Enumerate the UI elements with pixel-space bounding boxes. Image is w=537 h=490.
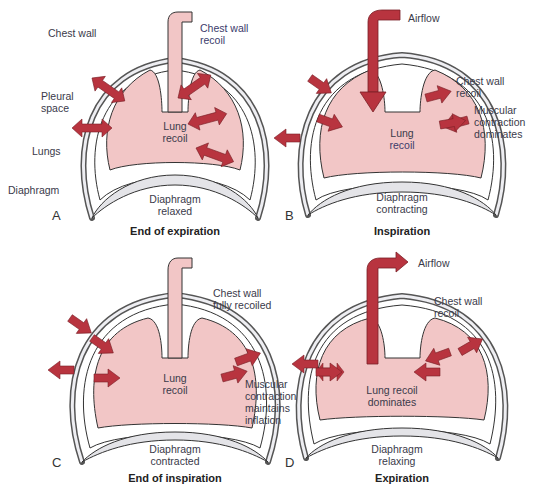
diaphragm-state-label: Diaphragm contracting [357,191,447,215]
diaphragm-state-label: Diaphragm relaxing [352,443,442,467]
panel-letter: A [52,208,61,223]
panel-b [274,10,503,215]
center-label: Lung recoil [145,372,205,396]
label-chest-wall: Chest wall [48,27,96,39]
panel-letter: B [285,208,294,223]
panel-letter: D [285,455,294,470]
center-label-2: recoil [372,139,432,151]
label-airflow: Airflow [408,12,440,24]
label-chest-wall-fully-recoiled: Chest wall fully recoiled [213,287,271,311]
panel-caption: Expiration [327,472,477,484]
panel-d [292,252,505,458]
center-label-1: Lung [372,127,432,139]
label-diaphragm: Diaphragm [8,184,59,196]
label-chest-wall-recoil: Chest wall recoil [200,22,248,46]
label-pleural-space: Pleural space [41,90,74,114]
label-muscular-contraction: Muscular contraction dominates [474,104,525,140]
diaphragm-state-label: Diaphragm relaxed [130,193,220,217]
panel-caption: End of inspiration [100,472,250,484]
label-chest-wall-recoil: Chest wall recoil [434,295,482,319]
label-airflow: Airflow [418,257,450,269]
panel-letter: C [52,455,61,470]
label-chest-wall-recoil: Chest wall recoil [456,75,504,99]
diaphragm-state-label: Diaphragm contracted [130,443,220,467]
panel-caption: End of expiration [100,225,250,237]
center-label: Lung recoil dominates [342,384,442,408]
label-lungs: Lungs [32,145,61,157]
center-label: Lung recoil [145,120,205,144]
panel-caption: Inspiration [327,225,477,237]
label-muscular-contraction: Muscular contraction maintains inflation [245,378,296,426]
